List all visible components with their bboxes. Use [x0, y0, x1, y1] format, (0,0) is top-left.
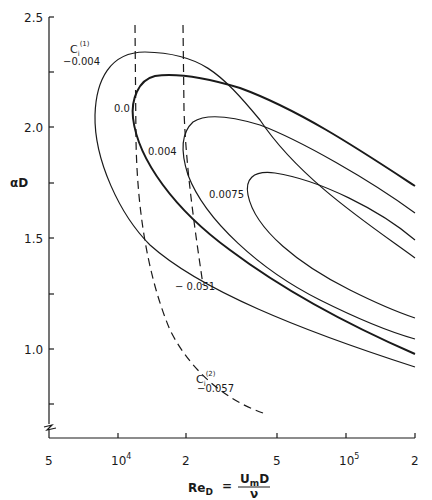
x-axis-title: ReD = UmD ν [188, 472, 270, 500]
curve-ci1-minus-0.004 [95, 52, 415, 367]
stability-chart: 2.5 2.0 1.5 1.0 αD 5 104 2 5 105 2 ReD =… [0, 0, 432, 500]
svg-text:ReD: ReD [188, 481, 213, 497]
y-tick-1.5: 1.5 [24, 232, 43, 246]
y-axis [44, 17, 56, 438]
x-tick-1e4: 104 [111, 452, 131, 468]
label-0.004: 0.004 [148, 146, 177, 157]
label-minus-0.051: − 0.051 [175, 281, 215, 292]
label-minus-0.057: −0.057 [197, 383, 234, 394]
y-tick-1.0: 1.0 [24, 343, 43, 357]
axis-break-icon [44, 425, 56, 430]
x-tick-2e5: 2 [411, 454, 419, 468]
x-tick-5e4: 5 [273, 454, 281, 468]
y-axis-title: αD [10, 176, 28, 190]
y-tick-2.5: 2.5 [24, 11, 43, 25]
label-0.0: 0.0 [114, 103, 130, 114]
curve-ci1-0.0075 [247, 172, 415, 318]
dashed-ci2-minus-0.057 [135, 25, 263, 413]
svg-text:UmD: UmD [240, 472, 269, 488]
svg-text:=: = [222, 479, 232, 493]
x-tick-5000: 5 [45, 454, 53, 468]
y-tick-2.0: 2.0 [24, 121, 43, 135]
curve-ci1-0.0 [133, 75, 415, 354]
x-tick-2e4: 2 [182, 454, 190, 468]
label-0.0075: 0.0075 [209, 189, 244, 200]
x-tick-1e5: 105 [339, 452, 359, 468]
curve-ci1-0.004 [183, 117, 415, 339]
x-axis [49, 433, 415, 438]
label-minus-0.004: −0.004 [63, 56, 100, 67]
svg-text:ν: ν [250, 487, 258, 500]
